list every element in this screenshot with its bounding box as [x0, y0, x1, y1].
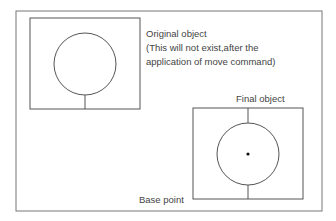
- original-object-label: Original object: [146, 28, 207, 40]
- outer-frame: [16, 11, 322, 211]
- final-object-label: Final object: [236, 93, 285, 105]
- original-object-note-line1: (This will not exist,after the: [146, 42, 258, 54]
- original-circle: [54, 33, 116, 95]
- base-point-label: Base point: [139, 194, 184, 206]
- original-object-note-line2: application of move command): [146, 56, 275, 68]
- final-object: [193, 108, 303, 199]
- center-point-icon: [246, 152, 249, 155]
- original-object: [30, 18, 140, 109]
